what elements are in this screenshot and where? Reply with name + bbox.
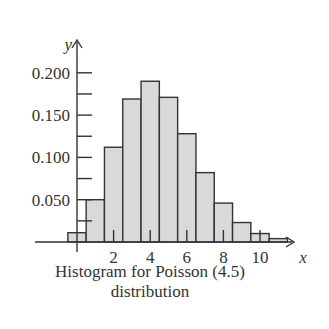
y-tick-label: 0.100 [32, 148, 70, 167]
histogram-bar [104, 147, 122, 242]
y-tick-label: 0.050 [32, 191, 70, 210]
y-tick-label: 0.150 [32, 106, 70, 125]
histogram-bar [233, 223, 251, 242]
y-axis-label: y [62, 35, 72, 54]
x-axis-label: x [298, 248, 307, 267]
histogram-bar [159, 97, 177, 242]
histogram-bar [178, 134, 196, 242]
histogram-bars [68, 81, 288, 242]
histogram-bar [141, 81, 159, 242]
y-tick-label: 0.200 [32, 64, 70, 83]
histogram-bar [196, 173, 214, 242]
x-tick-label: 10 [252, 248, 269, 267]
caption-line-2: distribution [50, 282, 250, 301]
histogram-bar [123, 99, 141, 242]
caption-line-1: Histogram for Poisson (4.5) [50, 262, 250, 281]
